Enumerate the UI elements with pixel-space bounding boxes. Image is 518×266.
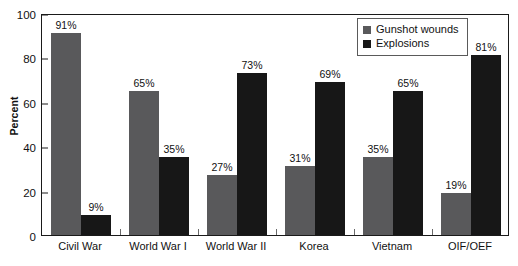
bar-value-label: 81% (475, 41, 496, 53)
bar-value-label: 19% (445, 179, 466, 191)
bar: 69% (315, 82, 345, 235)
bar-value-label: 91% (55, 19, 76, 31)
x-tick-mark (120, 229, 121, 235)
y-axis-title: Percent (8, 86, 20, 146)
y-tick-label: 100 (17, 9, 36, 21)
legend-item-explosions: Explosions (363, 37, 459, 51)
y-tick-mark (42, 15, 48, 16)
y-tick-mark (42, 192, 48, 193)
bar-group: 91%9% (51, 15, 111, 235)
legend-item-gunshot-wounds: Gunshot wounds (363, 23, 459, 37)
bar: 35% (363, 157, 393, 235)
x-tick-mark (198, 229, 199, 235)
chart-legend: Gunshot wounds Explosions (357, 18, 468, 56)
x-axis-category-label: Korea (299, 240, 328, 252)
x-axis-category-label: OIF/OEF (448, 240, 492, 252)
bar-group: 27%73% (207, 15, 267, 235)
bar: 31% (285, 166, 315, 235)
y-tick-mark (42, 59, 48, 60)
bar: 73% (237, 73, 267, 235)
bar: 9% (81, 215, 111, 235)
legend-swatch-icon (363, 40, 371, 48)
bar-value-label: 69% (319, 68, 340, 80)
y-tick-label: 0 (30, 231, 36, 243)
legend-swatch-icon (363, 26, 371, 34)
y-tick-mark (42, 148, 48, 149)
bar: 19% (441, 193, 471, 235)
bar-value-label: 35% (163, 143, 184, 155)
x-axis-category-label: World War II (206, 240, 267, 252)
bar-group: 31%69% (285, 15, 345, 235)
x-tick-mark (432, 229, 433, 235)
y-tick-label: 40 (23, 142, 36, 154)
bar: 65% (393, 91, 423, 235)
x-axis-labels: Civil WarWorld War IWorld War IIKoreaVie… (41, 240, 509, 260)
bar-value-label: 73% (241, 59, 262, 71)
bar-value-label: 65% (397, 77, 418, 89)
legend-label: Gunshot wounds (376, 23, 459, 37)
bar: 27% (207, 175, 237, 235)
y-tick-label: 20 (23, 187, 36, 199)
x-tick-mark (354, 229, 355, 235)
bar-value-label: 31% (289, 152, 310, 164)
bar: 65% (129, 91, 159, 235)
legend-label: Explosions (376, 37, 429, 51)
bar: 81% (471, 55, 501, 235)
bar-group: 65%35% (129, 15, 189, 235)
y-tick-mark (42, 103, 48, 104)
x-axis-category-label: World War I (129, 240, 186, 252)
bar-chart: Percent 91%9%65%35%27%73%31%69%35%65%19%… (0, 0, 518, 266)
bar-value-label: 35% (367, 143, 388, 155)
bar-value-label: 65% (133, 77, 154, 89)
x-tick-mark (276, 229, 277, 235)
y-tick-label: 80 (23, 53, 36, 65)
bar: 91% (51, 33, 81, 235)
bar: 35% (159, 157, 189, 235)
bar-value-label: 9% (88, 201, 103, 213)
x-axis-category-label: Vietnam (372, 240, 412, 252)
bar-value-label: 27% (211, 161, 232, 173)
x-axis-category-label: Civil War (58, 240, 102, 252)
y-tick-label: 60 (23, 98, 36, 110)
